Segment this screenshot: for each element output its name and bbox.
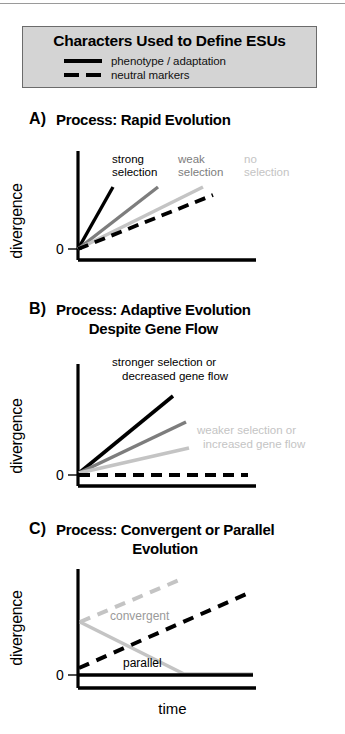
legend-entries: phenotype / adaptation neutral markers <box>23 54 316 82</box>
panel-c-title: Process: Convergent or Parallel Evolutio… <box>56 520 274 558</box>
legend-label-phenotype: phenotype / adaptation <box>111 55 226 67</box>
panel-b-zero-tick-label: 0 <box>56 467 64 483</box>
panel-b-ylabel: divergence <box>8 398 25 474</box>
panel-a-heading: A) Process: Rapid Evolution <box>0 110 345 129</box>
panel-a-letter: A) <box>0 110 56 128</box>
panel-c-chart: divergence 0 convergent parallel <box>0 566 345 691</box>
panel-b-title: Process: Adaptive Evolution Despite Gene… <box>56 300 251 338</box>
legend-label-neutral-markers: neutral markers <box>111 69 189 81</box>
top-divider-rule <box>0 3 345 4</box>
panel-c-zero-tick-label: 0 <box>56 667 64 683</box>
panel-a-ylabel: divergence <box>8 183 25 259</box>
characters-legend-box: Characters Used to Define ESUs phenotype… <box>22 26 317 88</box>
annotation-weaker-selection-line1: weaker selection or <box>196 424 296 436</box>
panel-b-letter: B) <box>0 300 56 318</box>
legend-item-phenotype: phenotype / adaptation <box>63 54 316 68</box>
panel-b-chart: divergence 0 stronger selection or decre… <box>0 356 345 501</box>
panel-c-heading: C) Process: Convergent or Parallel Evolu… <box>0 520 345 558</box>
series-weak-selection <box>78 187 158 249</box>
annotation-stronger-selection-line2: decreased gene flow <box>122 370 229 382</box>
annotation-parallel: parallel <box>123 656 162 670</box>
legend-title: Characters Used to Define ESUs <box>23 32 316 50</box>
annotation-weaker-selection-line2: increased gene flow <box>203 438 306 450</box>
panel-b-title-line1: Process: Adaptive Evolution <box>56 301 251 318</box>
series-neutral-markers <box>78 195 213 249</box>
panel-a-title: Process: Rapid Evolution <box>56 110 231 129</box>
dashed-line-swatch-icon <box>63 68 103 82</box>
annotation-weak-selection-line2: selection <box>178 166 223 178</box>
panel-b-title-line2: Despite Gene Flow <box>56 319 251 338</box>
annotation-no-selection-line2: selection <box>244 166 289 178</box>
annotation-strong-selection-line2: selection <box>112 166 157 178</box>
panel-b-heading: B) Process: Adaptive Evolution Despite G… <box>0 300 345 338</box>
panel-c-title-line2: Evolution <box>56 539 274 558</box>
solid-line-swatch-icon <box>63 54 103 68</box>
panel-a-zero-tick-label: 0 <box>56 241 64 257</box>
panel-c-ylabel: divergence <box>8 590 25 666</box>
annotation-stronger-selection-line1: stronger selection or <box>112 356 216 368</box>
panel-c-series <box>78 578 253 675</box>
panel-c-letter: C) <box>0 520 56 538</box>
x-axis-label-time: time <box>0 700 345 717</box>
annotation-strong-selection-line1: strong <box>112 153 144 165</box>
panel-a-title-line1: Process: Rapid Evolution <box>56 111 231 128</box>
annotation-no-selection-line1: no <box>244 153 257 165</box>
panel-a-chart: divergence 0 strong selection weak selec… <box>0 146 345 276</box>
panel-c-title-line1: Process: Convergent or Parallel <box>56 521 274 538</box>
series-parallel-neutral <box>79 592 251 668</box>
legend-item-neutral-markers: neutral markers <box>63 68 316 82</box>
annotation-weak-selection-line1: weak <box>177 153 205 165</box>
annotation-convergent: convergent <box>110 609 170 623</box>
panel-a-series <box>78 187 213 249</box>
